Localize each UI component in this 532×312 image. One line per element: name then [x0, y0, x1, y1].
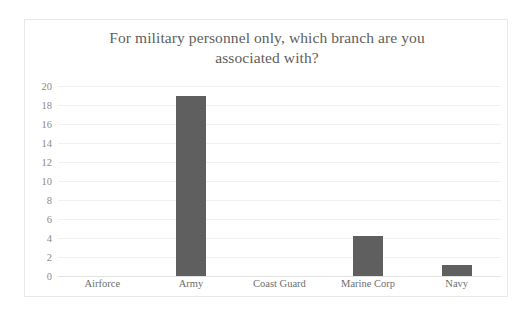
y-tick-label-14: 14 — [42, 138, 53, 149]
x-label-marine-corp: Marine Corp — [324, 278, 413, 289]
x-label-navy: Navy — [412, 278, 501, 289]
y-tick-label-2: 2 — [47, 252, 52, 263]
chart-title: For military personnel only, which branc… — [43, 28, 491, 68]
y-tick-label-20: 20 — [42, 81, 53, 92]
y-tick-label-8: 8 — [47, 195, 52, 206]
chart-title-line-2: associated with? — [215, 49, 319, 66]
chart-container: For military personnel only, which branc… — [24, 19, 508, 297]
y-tick-label-0: 0 — [47, 271, 52, 282]
y-tick-label-18: 18 — [42, 100, 53, 111]
bar-slot-airforce — [58, 86, 147, 276]
bar-navy[interactable] — [442, 265, 472, 276]
chart-title-line-1: For military personnel only, which branc… — [109, 29, 425, 46]
y-tick-label-6: 6 — [47, 214, 52, 225]
y-tick-label-12: 12 — [42, 157, 53, 168]
bar-marine-corp[interactable] — [353, 236, 383, 276]
gridline-0 — [58, 276, 501, 277]
bar-slot-army — [147, 86, 236, 276]
bar-slot-navy — [412, 86, 501, 276]
x-label-airforce: Airforce — [58, 278, 147, 289]
x-axis-category-labels: AirforceArmyCoast GuardMarine CorpNavy — [58, 278, 501, 289]
y-tick-label-10: 10 — [42, 176, 53, 187]
y-tick-label-4: 4 — [47, 233, 52, 244]
x-label-army: Army — [147, 278, 236, 289]
bar-slot-marine-corp — [324, 86, 413, 276]
bar-slot-coast-guard — [235, 86, 324, 276]
bar-army[interactable] — [176, 96, 206, 277]
bars-group — [58, 86, 501, 276]
y-tick-label-16: 16 — [42, 119, 53, 130]
x-label-coast-guard: Coast Guard — [235, 278, 324, 289]
plot-area: 20181614121086420 — [58, 86, 501, 276]
